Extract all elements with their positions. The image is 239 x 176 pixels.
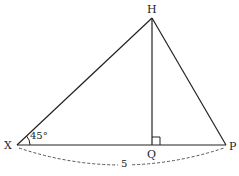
triangle-diagram: H X Q P 45° 5	[0, 0, 239, 176]
angle-label: 45°	[30, 130, 48, 141]
side-HP	[152, 18, 226, 145]
label-X: X	[4, 139, 12, 152]
right-angle-mark	[152, 137, 160, 145]
label-P: P	[229, 140, 237, 153]
side-XH	[17, 18, 152, 145]
label-H: H	[147, 3, 157, 16]
base-length-label: 5	[121, 158, 127, 169]
label-Q: Q	[147, 148, 156, 161]
